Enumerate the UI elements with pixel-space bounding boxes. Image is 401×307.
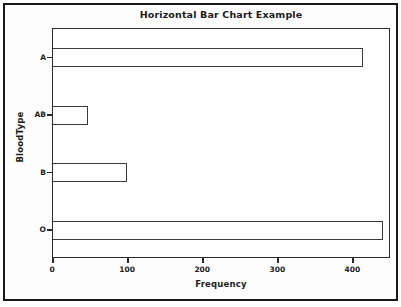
- x-tick-label-200: 200: [187, 265, 217, 274]
- x-tick-label-400: 400: [337, 265, 367, 274]
- y-tick-mark-a: [47, 57, 52, 59]
- x-tick-mark-0: [52, 258, 54, 263]
- x-tick-label-0: 0: [37, 265, 67, 274]
- bar-b: [52, 163, 127, 182]
- y-axis-label: BloodType: [15, 97, 25, 177]
- x-tick-mark-100: [127, 258, 129, 263]
- x-tick-mark-400: [352, 258, 354, 263]
- y-tick-label-b: B: [6, 168, 46, 177]
- y-tick-mark-b: [47, 172, 52, 174]
- x-tick-mark-300: [277, 258, 279, 263]
- y-tick-mark-ab: [47, 114, 52, 116]
- x-tick-mark-200: [202, 258, 204, 263]
- x-tick-label-300: 300: [262, 265, 292, 274]
- bar-ab: [52, 106, 88, 125]
- bar-o: [52, 221, 383, 240]
- y-tick-mark-o: [47, 229, 52, 231]
- plot-area: [52, 28, 390, 258]
- bar-a: [52, 48, 363, 67]
- x-axis-label: Frequency: [52, 279, 390, 289]
- y-tick-label-a: A: [6, 53, 46, 62]
- chart-figure: Horizontal Bar Chart Example BloodType F…: [0, 0, 401, 307]
- y-tick-label-o: O: [6, 225, 46, 234]
- x-tick-label-100: 100: [112, 265, 142, 274]
- chart-title: Horizontal Bar Chart Example: [52, 9, 390, 20]
- y-tick-label-ab: AB: [6, 110, 46, 119]
